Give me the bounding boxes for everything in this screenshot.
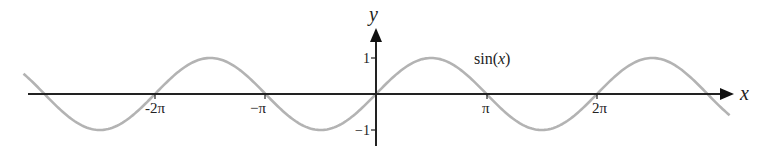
y-tick-label-1: 1 [363,51,370,66]
x-tick-label-neg2pi: -2π [145,100,165,116]
x-tick-label-negpi: −π [250,100,266,116]
y-axis-arrow-icon [370,28,382,42]
curve-annotation: sin(x) [474,50,510,68]
y-axis-label: y [367,3,378,26]
x-tick-label-pi: π [482,100,490,116]
sine-chart: x y 1 −1 -2π −π π 2π sin(x) [0,0,769,153]
x-axis-arrow-icon [720,88,734,100]
y-tick-label-neg1: −1 [355,123,370,138]
x-axis-label: x [739,82,749,104]
x-tick-label-2pi: 2π [592,100,608,116]
